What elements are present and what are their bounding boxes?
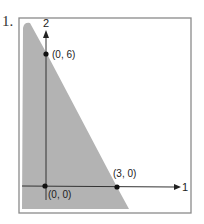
- figure: 2 1 (0, 6) (0, 0) (3, 0): [0, 0, 204, 224]
- horizontal-axis-label: 1: [182, 181, 188, 193]
- horizontal-axis-arrow-icon: [174, 184, 181, 190]
- point-0-6: [43, 51, 48, 56]
- point-0-0: [42, 183, 47, 188]
- point-label-0-0: (0, 0): [48, 189, 71, 200]
- point-label-0-6: (0, 6): [52, 49, 75, 60]
- shaded-region: [22, 23, 129, 209]
- vertical-axis-arrow-icon: [43, 30, 49, 38]
- point-label-3-0: (3, 0): [113, 168, 136, 179]
- vertical-axis-label: 2: [43, 17, 49, 29]
- point-3-0: [114, 184, 119, 189]
